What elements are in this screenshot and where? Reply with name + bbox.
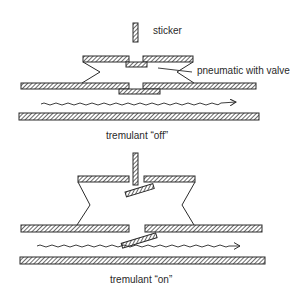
- label-leader-line: [158, 68, 192, 72]
- pneumatic-top-board-right: [144, 176, 195, 182]
- lower-valve: [119, 89, 160, 94]
- pneumatic-top-board-right: [143, 56, 193, 62]
- panel-tremulant-on: tremulant “on”: [20, 153, 265, 285]
- panel-tremulant-off: sticker pneumatic with valve tremulant “…: [19, 23, 290, 141]
- pneumatic-bellows-left: [82, 62, 100, 83]
- trunk-lower-wall: [19, 113, 259, 120]
- label-sticker: sticker: [153, 25, 183, 36]
- airflow-arrow: [37, 245, 240, 247]
- sticker: [133, 23, 138, 42]
- trunk-upper-wall-right: [143, 83, 256, 89]
- pneumatic-bellows-right: [177, 62, 194, 83]
- upper-valve: [126, 62, 147, 67]
- trunk-lower-wall: [20, 257, 265, 264]
- sticker: [133, 153, 138, 185]
- label-pneumatic-with-valve: pneumatic with valve: [197, 65, 290, 76]
- pneumatic-bellows-left: [77, 182, 90, 225]
- airflow-arrow: [41, 102, 236, 105]
- pneumatic-top-board-left: [83, 56, 129, 62]
- tremulant-diagram: sticker pneumatic with valve tremulant “…: [0, 0, 308, 291]
- trunk-upper-wall-right: [145, 225, 262, 232]
- caption-tremulant-off: tremulant “off”: [106, 130, 168, 141]
- pneumatic-bellows-right: [182, 182, 195, 225]
- pneumatic-top-board-left: [78, 176, 129, 182]
- caption-tremulant-on: tremulant “on”: [110, 274, 172, 285]
- trunk-upper-wall-left: [21, 225, 129, 232]
- tilted-upper-valve: [125, 184, 154, 197]
- trunk-upper-wall-left: [21, 83, 129, 89]
